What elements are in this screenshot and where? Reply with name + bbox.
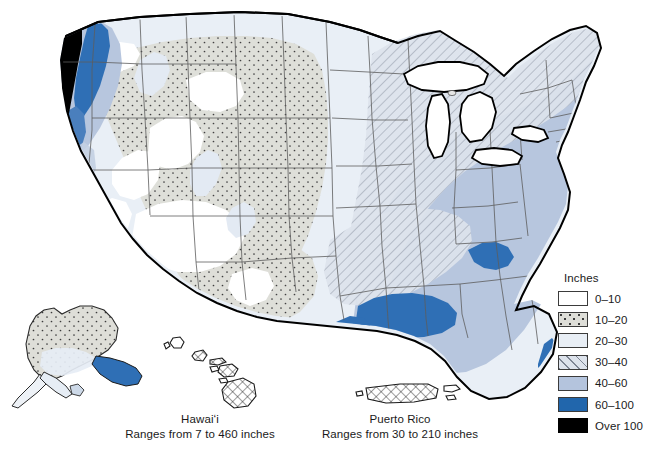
- legend-label-40-60: 40–60: [595, 377, 627, 389]
- mona-island: [356, 391, 363, 396]
- lake-superior: [404, 62, 488, 92]
- legend-label-over-100: Over 100: [595, 420, 643, 432]
- hawaii-molokai: [210, 358, 226, 365]
- legend-swatch-30-40: [558, 355, 588, 370]
- hawaii-caption: Hawaiʻi Ranges from 7 to 460 inches: [110, 412, 290, 441]
- puerto-rico-caption: Puerto Rico Ranges from 30 to 210 inches: [300, 412, 500, 441]
- lake-erie: [472, 148, 522, 166]
- legend-swatch-0-10: [558, 291, 588, 306]
- map-legend: Inches 0–10 10–20 20–30 30–40 40–60 60–1…: [558, 272, 650, 436]
- legend-item-20-30: 20–30: [558, 330, 650, 351]
- puerto-rico-caption-range: Ranges from 30 to 210 inches: [300, 427, 500, 442]
- hawaii-kauai: [170, 337, 184, 348]
- hawaii-maui: [218, 364, 238, 377]
- hawaii-niihau: [164, 342, 170, 349]
- puerto-rico-inset: [356, 384, 460, 403]
- conus-region: [42, 12, 601, 399]
- legend-item-40-60: 40–60: [558, 373, 650, 394]
- hawaii-lanai: [210, 366, 219, 372]
- small-lake-marker: [448, 90, 456, 95]
- hawaii-bigisland: [222, 378, 256, 408]
- hawaii-caption-name: Hawaiʻi: [110, 412, 290, 427]
- kodiak-island: [70, 384, 84, 396]
- alaska-inset: [12, 306, 142, 408]
- legend-label-30-40: 30–40: [595, 356, 627, 368]
- legend-item-0-10: 0–10: [558, 288, 650, 309]
- legend-item-10-20: 10–20: [558, 309, 650, 330]
- legend-title: Inches: [564, 272, 650, 284]
- legend-item-60-100: 60–100: [558, 394, 650, 415]
- legend-swatch-20-30: [558, 333, 588, 348]
- hawaii-kahoolawe: [219, 378, 228, 383]
- legend-label-60-100: 60–100: [595, 399, 634, 411]
- zone-40-60-sierra: [62, 142, 96, 210]
- vieques-island: [444, 385, 460, 392]
- puerto-rico-caption-name: Puerto Rico: [300, 412, 500, 427]
- legend-swatch-over-100: [558, 418, 588, 433]
- zone-60-100-nocal-coast: [56, 106, 86, 172]
- legend-label-20-30: 20–30: [595, 335, 627, 347]
- hawaii-caption-range: Ranges from 7 to 460 inches: [110, 427, 290, 442]
- legend-swatch-60-100: [558, 397, 588, 412]
- alaska-panhandle: [92, 356, 142, 386]
- legend-label-0-10: 0–10: [595, 293, 621, 305]
- puerto-rico-island: [366, 384, 438, 403]
- legend-swatch-40-60: [558, 376, 588, 391]
- culebra-island: [446, 395, 456, 400]
- hawaii-oahu: [192, 350, 207, 361]
- precipitation-map: Inches 0–10 10–20 20–30 30–40 40–60 60–1…: [0, 0, 654, 458]
- hawaii-inset: [164, 337, 256, 408]
- legend-label-10-20: 10–20: [595, 314, 627, 326]
- map-graphic: [0, 0, 654, 458]
- legend-item-30-40: 30–40: [558, 352, 650, 373]
- legend-item-over-100: Over 100: [558, 415, 650, 436]
- legend-swatch-10-20: [558, 312, 588, 327]
